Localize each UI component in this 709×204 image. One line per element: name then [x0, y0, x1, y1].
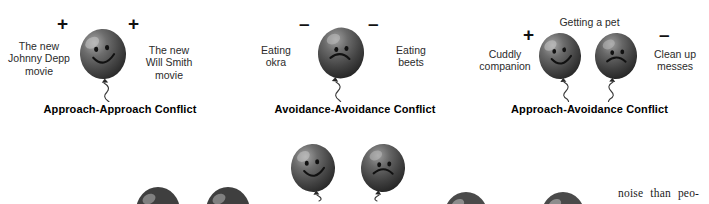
label-left-option: Cuddly companion [470, 48, 540, 73]
label-top-shared: Getting a pet [470, 16, 709, 28]
balloon-cropped [438, 192, 494, 204]
second-row-cropped: noisethanpeo- [0, 130, 709, 204]
motivational-conflict-figure: + + The new Johnny Depp movie The new Wi… [0, 0, 709, 204]
valence-sign-minus-left: – [299, 14, 310, 33]
balloon-sad [589, 32, 647, 102]
balloon-happy [285, 143, 345, 204]
panel-approach-avoidance: Getting a pet + – Cuddly companion Clean… [470, 0, 709, 130]
valence-sign-minus-right: – [659, 25, 670, 44]
balloon-happy [74, 28, 136, 102]
label-right-option: Eating beets [380, 44, 442, 69]
caption-approach-avoidance: Approach-Avoidance Conflict [470, 103, 709, 115]
body-word: noise [618, 187, 643, 199]
balloon-sad [355, 143, 415, 204]
label-left-option: Eating okra [245, 44, 307, 69]
label-left-option: The new Johnny Depp movie [2, 40, 76, 77]
balloon-sad [311, 26, 373, 102]
caption-avoidance-avoidance: Avoidance-Avoidance Conflict [240, 103, 470, 115]
valence-sign-plus-left: + [57, 14, 68, 33]
panel-approach-approach: + + The new Johnny Depp movie The new Wi… [0, 0, 240, 130]
balloon-cropped [535, 192, 591, 204]
balloon-cropped [130, 187, 186, 204]
body-word: than [650, 187, 671, 199]
body-word: peo- [678, 187, 699, 199]
body-text-line: noisethanpeo- [618, 187, 699, 199]
label-right-option: The new Will Smith movie [133, 44, 205, 81]
panel-avoidance-avoidance: – – Eating okra Eating beets [240, 0, 470, 130]
balloon-cropped [200, 187, 256, 204]
balloon-happy [533, 32, 591, 102]
caption-approach-approach: Approach-Approach Conflict [0, 103, 240, 115]
label-right-option: Clean up messes [642, 48, 708, 73]
